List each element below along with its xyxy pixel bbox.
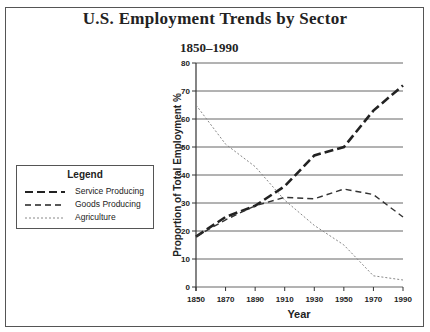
x-tick-label: 1950 (335, 295, 353, 304)
x-tick-label: 1970 (365, 295, 383, 304)
series-service-producing (196, 85, 403, 236)
y-tick-label: 0 (186, 283, 191, 292)
x-tick-label: 1870 (217, 295, 235, 304)
axes: 0102030405060708018501870189019101930195… (181, 59, 412, 304)
y-tick-label: 80 (181, 59, 190, 68)
gridlines (196, 63, 403, 287)
x-tick-label: 1890 (246, 295, 264, 304)
series-agriculture (196, 105, 403, 280)
x-tick-label: 1910 (276, 295, 294, 304)
line-chart: 0102030405060708018501870189019101930195… (0, 0, 430, 332)
x-tick-label: 1930 (305, 295, 323, 304)
series-goods-producing (196, 189, 403, 237)
x-tick-label: 1990 (394, 295, 412, 304)
x-axis-label: Year (287, 308, 311, 320)
y-axis-label: Proportion of Total Employment % (172, 93, 183, 257)
x-tick-label: 1850 (187, 295, 205, 304)
series-lines (196, 85, 403, 280)
